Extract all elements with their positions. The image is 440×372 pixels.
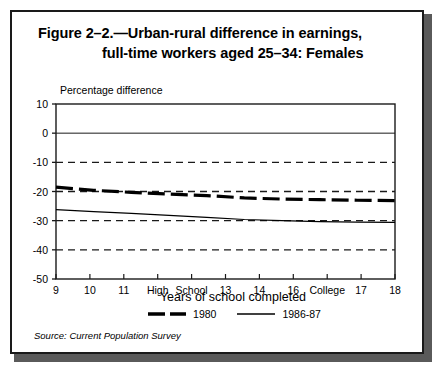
figure-container: Figure 2–2.—Urban-rural difference in ea… <box>0 0 440 372</box>
y-tick-label: -40 <box>20 244 48 256</box>
source-note: Source: Current Population Survey <box>34 330 181 341</box>
legend-label: 1986-87 <box>282 308 321 320</box>
y-tick-label: -30 <box>20 215 48 227</box>
legend-thick-dashed-line-icon <box>147 309 187 319</box>
x-axis-label: Years of school completed <box>132 290 306 304</box>
x-axis-label-row: Years of school completed <box>12 290 426 304</box>
y-tick-label: -20 <box>20 186 48 198</box>
figure-frame: Figure 2–2.—Urban-rural difference in ea… <box>10 10 424 354</box>
legend-thin-solid-line-icon <box>236 309 276 319</box>
chart-legend: 19801986-87 <box>12 308 426 320</box>
line-chart-svg <box>12 12 426 356</box>
y-tick-label: -50 <box>20 273 48 285</box>
y-tick-label: -10 <box>20 156 48 168</box>
y-tick-label: 0 <box>20 127 48 139</box>
legend-label: 1980 <box>193 308 216 320</box>
legend-item: 1980 <box>147 308 216 320</box>
y-tick-label: 10 <box>20 98 48 110</box>
legend-item: 1986-87 <box>236 308 321 320</box>
plot-area-wrapper: Percentage difference 100-10-20-30-40-50… <box>12 12 426 356</box>
